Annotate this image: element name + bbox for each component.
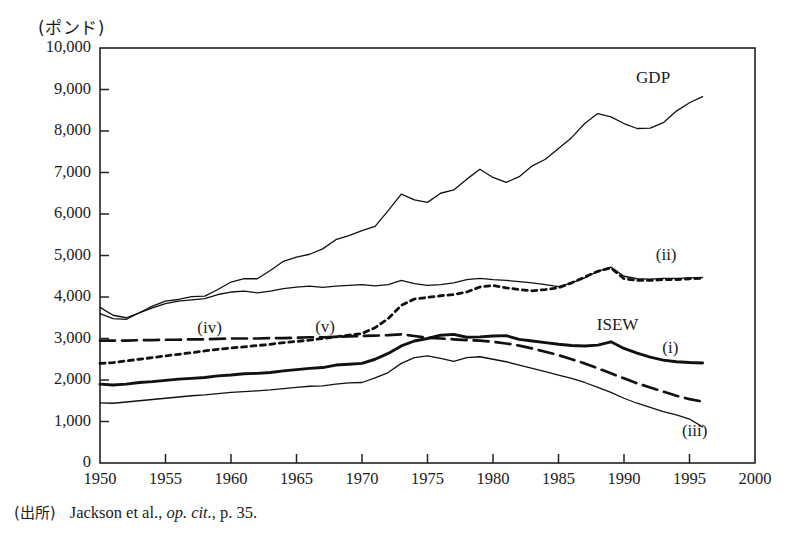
y-tick-label: 7,000: [54, 164, 91, 181]
series-label-ISEW: ISEW: [597, 316, 639, 333]
series-label-i: (i): [662, 339, 678, 356]
series-label-iii: (iii): [682, 422, 708, 439]
y-tick-label: 2,000: [54, 371, 91, 388]
series-line-iii: [100, 356, 703, 427]
series-line-ii: [100, 267, 703, 318]
y-tick-label: 3,000: [54, 330, 91, 347]
chart-figure: (ポンド) (出所)Jackson et al., op. cit., p. 3…: [0, 0, 795, 543]
source-prefix: (出所): [14, 504, 56, 522]
y-axis-unit-label: (ポンド): [38, 14, 105, 39]
y-tick-label: 6,000: [54, 205, 91, 222]
series-label-iv: (iv): [197, 319, 222, 336]
series-label-ii: (ii): [656, 246, 677, 263]
y-tick-label: 10,000: [46, 39, 91, 56]
y-tick-label: 1,000: [54, 413, 91, 430]
y-tick-label: 9,000: [54, 81, 91, 98]
series-line-i: [100, 334, 703, 385]
source-note: (出所)Jackson et al., op. cit., p. 35.: [14, 505, 257, 522]
series-label-GDP: GDP: [636, 69, 670, 86]
y-tick-label: 4,000: [54, 288, 91, 305]
source-author: Jackson et al.,: [70, 503, 163, 522]
y-tick-label: 5,000: [54, 247, 91, 264]
y-tick-label: 8,000: [54, 122, 91, 139]
series-label-v: (v): [315, 318, 335, 335]
source-citation-italic: op. cit.: [166, 503, 211, 522]
x-tick-label: 2000: [715, 471, 795, 488]
series-line-GDP: [100, 97, 703, 320]
source-page: , p. 35.: [212, 503, 257, 522]
